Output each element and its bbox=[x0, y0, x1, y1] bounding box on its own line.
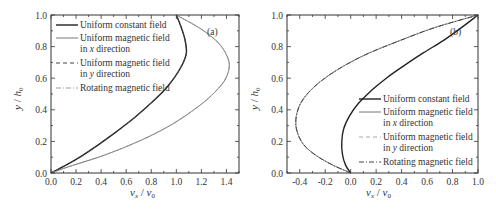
y-tick-label: 0.0 bbox=[35, 169, 47, 179]
y-tick-label: 0.6 bbox=[271, 74, 283, 84]
y-axis-label-a: y / h0 bbox=[11, 87, 25, 111]
legend-a: Uniform constant field Uniform magnetic … bbox=[56, 20, 170, 93]
legend-label-rotating: Rotating magnetic field bbox=[80, 83, 170, 93]
x-tick-label: 0.6 bbox=[421, 177, 433, 187]
x-tick-label: 1.2 bbox=[195, 177, 207, 187]
x-tick-label: 0.0 bbox=[345, 177, 357, 187]
y-tick-label: 0.8 bbox=[35, 42, 47, 52]
y-tick-label: 1.0 bbox=[271, 11, 283, 21]
x-axis-label-b: vx / v0 bbox=[366, 186, 391, 200]
legend-label-constant-b: Uniform constant field bbox=[383, 94, 470, 104]
panel-tag-a: (a) bbox=[207, 27, 218, 38]
legend-label-rotating-b: Rotating magnetic field bbox=[383, 157, 473, 167]
x-tick-label: 0.0 bbox=[45, 177, 57, 187]
x-tick-label: -0.2 bbox=[318, 177, 333, 187]
y-axis-label-b: y / h0 bbox=[248, 87, 262, 111]
legend-label-constant: Uniform constant field bbox=[80, 20, 167, 30]
x-tick-label: 1.0 bbox=[170, 177, 182, 187]
legend-label-x-field-line2-b: in x direction bbox=[383, 118, 433, 128]
legend-label-y-field-line2-b: in y direction bbox=[383, 143, 433, 153]
x-tick-label: 1.0 bbox=[472, 177, 484, 187]
y-tick-label: 0.4 bbox=[271, 105, 283, 115]
panel-tag-b: (b) bbox=[450, 27, 461, 38]
legend-label-y-field-line2: in y direction bbox=[80, 69, 130, 79]
chart-panel-a: 0.00.20.40.60.81.01.21.4 0.00.20.40.60.8… bbox=[11, 11, 239, 201]
y-tick-label: 0.2 bbox=[35, 137, 47, 147]
y-tick-label: 0.8 bbox=[271, 42, 283, 52]
x-tick-label: -0.4 bbox=[292, 177, 307, 187]
chart-panel-b: -0.4-0.20.00.20.40.60.81.0 0.00.20.40.60… bbox=[248, 11, 484, 201]
x-tick-label: 0.2 bbox=[70, 177, 82, 187]
legend-label-x-field-line2: in x direction bbox=[80, 44, 130, 54]
y-tick-label: 1.0 bbox=[35, 11, 47, 21]
legend-label-y-field-b: Uniform magnetic field bbox=[383, 132, 473, 142]
x-tick-label: 0.8 bbox=[447, 177, 459, 187]
y-tick-label: 0.0 bbox=[271, 169, 283, 179]
y-tick-label: 0.6 bbox=[35, 74, 47, 84]
legend-b: Uniform constant field Uniform magnetic … bbox=[359, 94, 473, 167]
x-tick-label: 0.4 bbox=[95, 177, 107, 187]
y-tick-label: 0.4 bbox=[35, 105, 47, 115]
figure: 0.00.20.40.60.81.01.21.4 0.00.20.40.60.8… bbox=[0, 0, 496, 209]
x-tick-label: 1.4 bbox=[221, 177, 233, 187]
legend-label-x-field: Uniform magnetic field bbox=[80, 33, 170, 43]
legend-label-y-field: Uniform magnetic field bbox=[80, 58, 170, 68]
x-tick-label: 0.4 bbox=[396, 177, 408, 187]
legend-label-x-field-b: Uniform magnetic field bbox=[383, 107, 473, 117]
x-axis-label-a: vx / v0 bbox=[130, 186, 155, 200]
y-tick-label: 0.2 bbox=[271, 137, 283, 147]
